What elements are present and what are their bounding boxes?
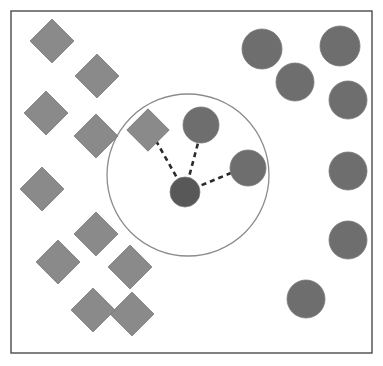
class-b-circle-marker [329,152,367,190]
scatter-plot-canvas [0,0,383,366]
class-b-circle-marker [276,63,314,101]
knn-diagram-figure [0,0,383,366]
class-b-circle-marker [287,280,325,318]
class-b-circle-marker [183,107,219,143]
class-b-circle-marker [242,29,282,69]
class-b-circle-marker [230,150,266,186]
class-b-circle-marker [329,221,367,259]
query-point-layer [170,177,200,207]
query-point-marker [170,177,200,207]
class-b-circle-marker [320,26,360,66]
class-b-circle-marker [329,81,367,119]
